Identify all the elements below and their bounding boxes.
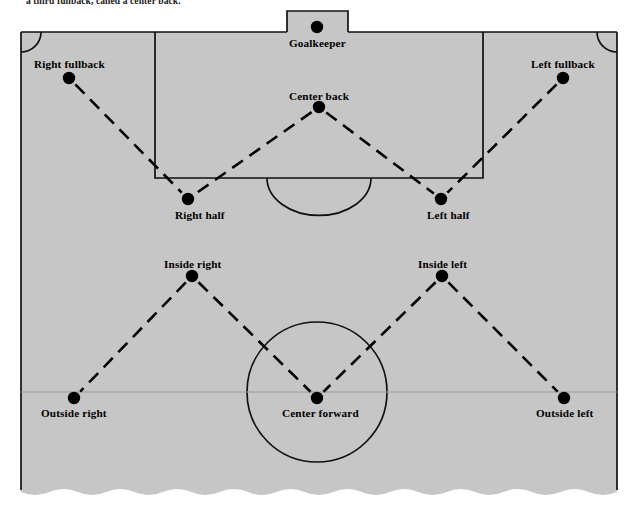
player-label-outside-left: Outside left <box>536 407 593 419</box>
soccer-pitch-svg <box>0 0 637 526</box>
player-dot-inside-right[interactable] <box>186 270 198 282</box>
player-dot-center-back[interactable] <box>313 101 325 113</box>
player-dot-center-forward[interactable] <box>311 392 323 404</box>
player-label-inside-right: Inside right <box>164 258 221 270</box>
player-label-right-half: Right half <box>175 209 225 221</box>
player-label-outside-right: Outside right <box>41 407 107 419</box>
player-label-center-forward: Center forward <box>282 407 359 419</box>
player-dot-right-fullback[interactable] <box>63 72 75 84</box>
player-dot-inside-left[interactable] <box>436 270 448 282</box>
player-dot-left-fullback[interactable] <box>557 72 569 84</box>
player-label-center-back: Center back <box>289 90 349 102</box>
player-dot-outside-left[interactable] <box>558 392 570 404</box>
player-dot-goalkeeper[interactable] <box>311 21 323 33</box>
field-surface <box>21 11 617 495</box>
player-dot-left-half[interactable] <box>435 193 447 205</box>
player-label-right-fullback: Right fullback <box>34 58 105 70</box>
player-label-goalkeeper: Goalkeeper <box>289 37 346 49</box>
player-label-inside-left: Inside left <box>418 258 467 270</box>
player-dot-right-half[interactable] <box>182 193 194 205</box>
player-label-left-fullback: Left fullback <box>531 58 595 70</box>
player-dot-outside-right[interactable] <box>68 392 80 404</box>
diagram-stage: a third fullback, called a center back. … <box>0 0 637 526</box>
player-label-left-half: Left half <box>427 209 470 221</box>
